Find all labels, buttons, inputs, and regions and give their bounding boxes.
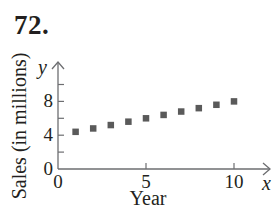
x-tick-label: 5 xyxy=(141,171,151,192)
y-axis-variable: y xyxy=(36,56,47,79)
data-point-marker xyxy=(213,102,220,109)
data-point-marker xyxy=(125,118,131,125)
data-point-marker xyxy=(231,98,238,105)
data-point-marker xyxy=(90,125,97,132)
data-point-marker xyxy=(108,122,115,129)
data-point-marker xyxy=(72,129,79,136)
y-tick-label: 0 xyxy=(44,158,54,179)
x-tick-label: 10 xyxy=(225,171,244,192)
data-point-marker xyxy=(160,112,167,119)
data-point-marker xyxy=(143,115,150,122)
data-point-marker xyxy=(178,108,185,115)
data-points xyxy=(72,98,237,135)
axis-ticks: 0480510 xyxy=(44,85,244,193)
x-tick-label: 0 xyxy=(53,171,63,192)
y-tick-label: 4 xyxy=(44,124,54,145)
scatter-plot: yx 0480510 xyxy=(0,0,278,215)
y-tick-label: 8 xyxy=(44,90,54,111)
x-axis-variable: x xyxy=(261,172,271,194)
data-point-marker xyxy=(196,105,203,112)
